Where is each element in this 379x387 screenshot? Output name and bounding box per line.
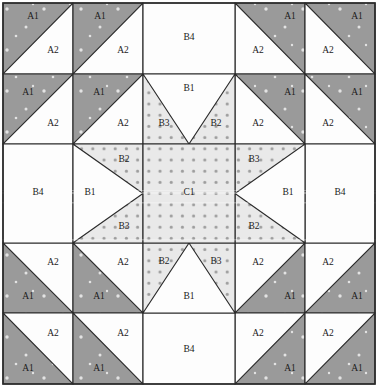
piece-label-tr-r1c5-a2: A2	[322, 45, 334, 55]
piece-label-br-r4c5-a1: A1	[351, 291, 363, 301]
piece-label-left-b4: B4	[32, 187, 43, 197]
piece-label-br-r4c4-a1: A1	[284, 291, 296, 301]
piece-label-top-b1: B1	[183, 83, 194, 93]
piece-label-top-b3: B3	[158, 118, 169, 128]
piece-label-tl-r2c2-a2: A2	[117, 118, 129, 128]
piece-label-bottom-b4: B4	[183, 344, 194, 354]
piece-label-bottom-b1: B1	[183, 291, 194, 301]
piece-label-tl-r1c1-a1: A1	[27, 11, 39, 21]
quilt-block-diagram: A1A2A1A2A1A2A1A2A1A2A1A2A1A2A1A2A1A2A1A2…	[0, 0, 379, 387]
piece-label-bl-r5c1-a2: A2	[47, 328, 59, 338]
piece-label-br-r4c5-a2: A2	[322, 257, 334, 267]
piece-label-left-b2: B2	[118, 154, 129, 164]
piece-label-br-r5c4-a1: A1	[284, 363, 296, 373]
piece-label-tr-r1c5-a1: A1	[351, 11, 363, 21]
piece-label-tl-r2c1-a2: A2	[47, 118, 59, 128]
piece-label-br-r5c4-a2: A2	[252, 328, 264, 338]
piece-label-tr-r1c4-a2: A2	[252, 45, 264, 55]
piece-label-center-c1: C1	[183, 187, 194, 197]
piece-label-right-b2: B2	[248, 221, 259, 231]
piece-label-tr-r2c5-a2: A2	[322, 118, 334, 128]
piece-label-tl-r1c2-a1: A1	[94, 11, 106, 21]
piece-label-right-b3: B3	[248, 154, 259, 164]
piece-label-bl-r4c1-a2: A2	[47, 257, 59, 267]
piece-label-bl-r4c1-a1: A1	[22, 291, 34, 301]
piece-label-tl-r1c2-a2: A2	[117, 45, 129, 55]
piece-label-top-b4: B4	[183, 32, 194, 42]
piece-label-tr-r2c5-a1: A1	[351, 87, 363, 97]
piece-label-bl-r4c2-a2: A2	[117, 257, 129, 267]
piece-label-tl-r2c1-a1: A1	[22, 87, 34, 97]
piece-label-tr-r2c4-a2: A2	[252, 118, 264, 128]
piece-label-right-b1: B1	[282, 187, 293, 197]
piece-label-right-b4: B4	[334, 187, 345, 197]
piece-label-left-b1: B1	[84, 187, 95, 197]
piece-label-bl-r5c2-a1: A1	[93, 363, 105, 373]
piece-label-br-r5c5-a2: A2	[322, 328, 334, 338]
piece-label-tl-r1c1-a2: A2	[47, 45, 59, 55]
piece-label-tr-r1c4-a1: A1	[284, 11, 296, 21]
piece-label-br-r4c4-a2: A2	[252, 257, 264, 267]
piece-label-top-b2: B2	[210, 118, 221, 128]
quilt-block-canvas: A1A2A1A2A1A2A1A2A1A2A1A2A1A2A1A2A1A2A1A2…	[0, 0, 379, 387]
piece-label-tl-r2c2-a1: A1	[93, 87, 105, 97]
piece-label-bl-r4c2-a1: A1	[93, 291, 105, 301]
piece-label-bl-r5c1-a1: A1	[22, 363, 34, 373]
piece-label-bottom-b2: B2	[158, 256, 169, 266]
star-point-bottom	[143, 243, 235, 313]
piece-label-br-r5c5-a1: A1	[351, 363, 363, 373]
piece-label-bl-r5c2-a2: A2	[117, 328, 129, 338]
piece-label-left-b3: B3	[118, 221, 129, 231]
piece-label-bottom-b3: B3	[210, 256, 221, 266]
piece-label-tr-r2c4-a1: A1	[284, 87, 296, 97]
